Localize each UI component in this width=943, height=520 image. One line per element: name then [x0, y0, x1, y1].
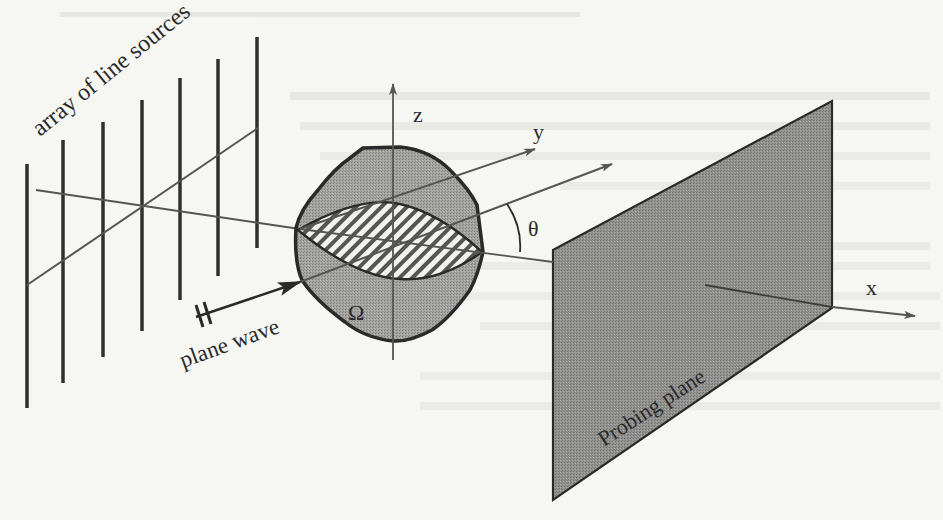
x-axis-label: x — [866, 275, 877, 300]
scattering-geometry-figure: array of line sources plane wave Ω z y x… — [0, 0, 943, 520]
omega-label: Ω — [348, 300, 364, 325]
theta-label: θ — [528, 216, 539, 241]
theta-angle-arc — [507, 204, 520, 252]
x-axis-beyond-plane — [832, 307, 915, 316]
plane-wave-arrow — [196, 282, 300, 327]
x-axis-back-extension — [36, 190, 300, 229]
array-label: array of line sources — [27, 0, 195, 141]
z-axis-label: z — [413, 102, 423, 127]
y-axis-label: y — [533, 119, 544, 144]
array-guide-lines — [27, 128, 300, 285]
diagram-canvas: array of line sources plane wave Ω z y x… — [0, 0, 943, 520]
plane-wave-label: plane wave — [176, 314, 282, 373]
y-axis-inner — [258, 128, 300, 229]
